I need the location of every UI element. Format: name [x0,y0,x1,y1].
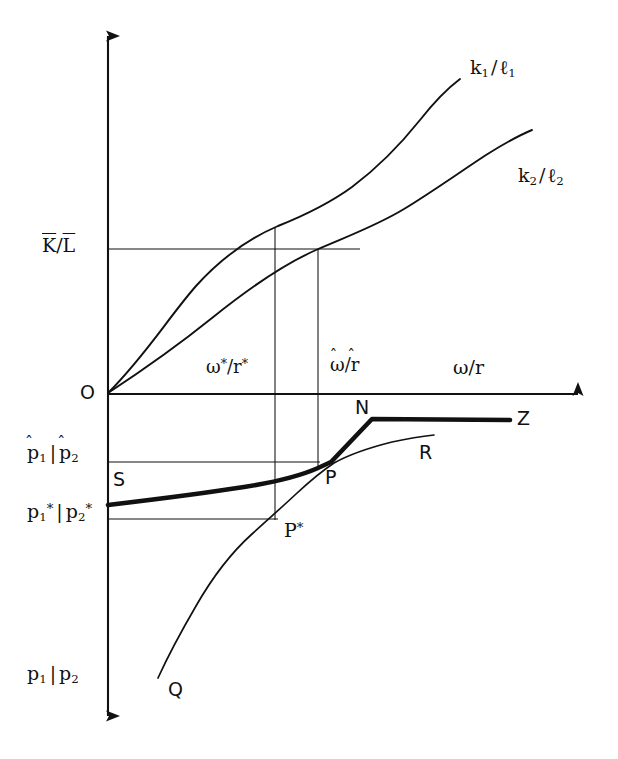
point-label-P: P [325,468,336,487]
point-label-Q: Q [168,680,183,699]
y-label-p-base: p1|p2 [27,664,79,686]
point-label-N: N [355,398,369,417]
curve-label-k2-l2: k2 / ℓ2 [518,166,564,188]
y-tick-label-k-over-l: K/L [42,236,75,255]
x-tick-label-omega-hat: ω̂/r̂ [330,356,359,374]
point-label-R: R [419,443,432,462]
point-label-S: S [113,470,125,489]
curve-k2-over-l2 [108,130,532,393]
curve-k1-over-l1 [108,79,460,393]
diagram-svg [0,0,618,759]
point-label-Z: Z [517,409,530,428]
point-label-P-star: P* [284,521,303,540]
curve-label-k1-l1: k1 / ℓ1 [470,58,516,80]
y-label-p-star: p1*|p2* [27,502,92,524]
figure-canvas: k1 / ℓ1 k2 / ℓ2 O ω/r K/L ω*/r* ω̂/r̂ p̂… [0,0,618,759]
x-tick-label-omega-star: ω*/r* [206,358,248,376]
y-label-p-hat: p̂1|p̂2 [27,443,79,465]
curve-relative-price-QPR [158,435,434,678]
origin-label: O [80,383,95,402]
x-axis-label: ω/r [453,358,484,377]
